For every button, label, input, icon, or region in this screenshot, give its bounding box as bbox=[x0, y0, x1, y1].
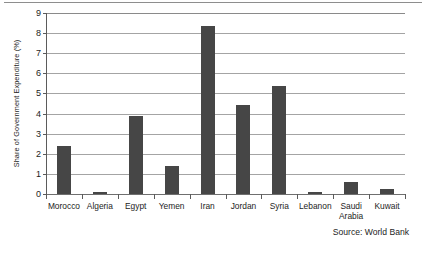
x-tick-mark-2 bbox=[118, 194, 119, 199]
source-note: Source: World Bank bbox=[333, 227, 409, 237]
y-tick-mark-8 bbox=[43, 33, 47, 34]
x-tick-mark-6 bbox=[261, 194, 262, 199]
bar-lebanon bbox=[308, 192, 322, 194]
bar-iran bbox=[201, 26, 215, 194]
x-tick-label-jordan: Jordan bbox=[226, 201, 262, 211]
y-tick-mark-9 bbox=[43, 13, 47, 14]
y-tick-label-9: 9 bbox=[36, 9, 41, 18]
bar-saudi-arabia bbox=[344, 182, 358, 194]
gridline-9 bbox=[46, 13, 405, 14]
gridline-4 bbox=[46, 114, 405, 115]
y-tick-mark-4 bbox=[43, 114, 47, 115]
y-tick-mark-2 bbox=[43, 154, 47, 155]
x-tick-mark-4 bbox=[190, 194, 191, 199]
x-tick-mark-7 bbox=[297, 194, 298, 199]
y-tick-label-7: 7 bbox=[36, 49, 41, 58]
x-tick-label-morocco: Morocco bbox=[46, 201, 82, 211]
y-tick-mark-1 bbox=[43, 174, 47, 175]
y-tick-label-4: 4 bbox=[36, 109, 41, 118]
bar-chart-figure: Share of Government Expenditure (%) 0123… bbox=[0, 0, 426, 253]
bar-algeria bbox=[93, 192, 107, 194]
y-tick-label-6: 6 bbox=[36, 69, 41, 78]
x-tick-label-lebanon: Lebanon bbox=[297, 201, 333, 211]
plot-area: 0123456789 MoroccoAlgeriaEgyptYemenIranJ… bbox=[46, 13, 405, 194]
gridline-6 bbox=[46, 73, 405, 74]
x-tick-mark-9 bbox=[369, 194, 370, 199]
y-axis-title: Share of Government Expenditure (%) bbox=[12, 9, 21, 199]
bar-egypt bbox=[129, 116, 143, 194]
y-tick-mark-3 bbox=[43, 134, 47, 135]
y-tick-label-1: 1 bbox=[36, 169, 41, 178]
y-tick-label-8: 8 bbox=[36, 29, 41, 38]
x-tick-mark-3 bbox=[154, 194, 155, 199]
gridline-1 bbox=[46, 174, 405, 175]
gridline-3 bbox=[46, 134, 405, 135]
y-axis-line bbox=[46, 13, 47, 194]
gridline-2 bbox=[46, 154, 405, 155]
x-tick-label-saudi-arabia: Saudi Arabia bbox=[333, 201, 369, 221]
y-tick-label-5: 5 bbox=[36, 89, 41, 98]
x-tick-label-algeria: Algeria bbox=[82, 201, 118, 211]
x-tick-label-syria: Syria bbox=[261, 201, 297, 211]
y-tick-label-2: 2 bbox=[36, 149, 41, 158]
bar-morocco bbox=[57, 146, 71, 194]
bar-syria bbox=[272, 86, 286, 194]
x-tick-mark-0 bbox=[46, 194, 47, 199]
bar-yemen bbox=[165, 166, 179, 194]
x-tick-label-egypt: Egypt bbox=[118, 201, 154, 211]
y-tick-mark-5 bbox=[43, 93, 47, 94]
gridline-5 bbox=[46, 93, 405, 94]
x-tick-mark-10 bbox=[405, 194, 406, 199]
x-tick-mark-8 bbox=[333, 194, 334, 199]
y-tick-mark-7 bbox=[43, 53, 47, 54]
x-tick-label-iran: Iran bbox=[190, 201, 226, 211]
y-tick-label-0: 0 bbox=[36, 190, 41, 199]
bar-kuwait bbox=[380, 189, 394, 194]
x-tick-label-yemen: Yemen bbox=[154, 201, 190, 211]
bar-jordan bbox=[236, 105, 250, 194]
gridline-7 bbox=[46, 53, 405, 54]
gridline-8 bbox=[46, 33, 405, 34]
x-tick-mark-5 bbox=[226, 194, 227, 199]
x-tick-mark-1 bbox=[82, 194, 83, 199]
x-tick-label-kuwait: Kuwait bbox=[369, 201, 405, 211]
top-divider bbox=[4, 2, 422, 3]
y-tick-label-3: 3 bbox=[36, 129, 41, 138]
y-tick-mark-6 bbox=[43, 73, 47, 74]
